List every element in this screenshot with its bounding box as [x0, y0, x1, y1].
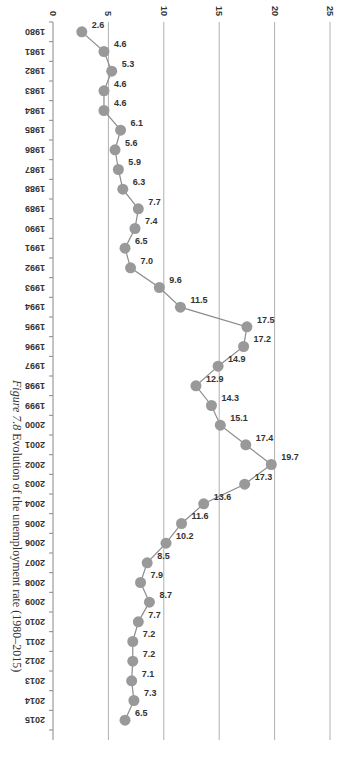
- figure-caption: Figure 7.8 Evolution of the unemployment…: [10, 379, 24, 672]
- x-tick-label: 2006: [25, 538, 45, 548]
- x-tick-label: 1995: [25, 322, 45, 332]
- x-tick-label: 1985: [25, 125, 45, 135]
- x-tick-label: 2010: [25, 617, 45, 627]
- data-label: 4.6: [114, 79, 127, 89]
- data-point: [239, 479, 250, 490]
- data-point: [144, 597, 155, 608]
- y-tick-label: 25: [325, 6, 335, 16]
- data-point: [117, 184, 128, 195]
- x-tick-label: 1991: [25, 243, 45, 253]
- data-point: [128, 695, 139, 706]
- data-point: [133, 203, 144, 214]
- x-tick-label: 1987: [25, 165, 45, 175]
- data-label: 7.3: [144, 689, 157, 699]
- caption-text: Evolution of the unemployment rate (1980…: [10, 433, 24, 672]
- x-tick-label: 2008: [25, 578, 45, 588]
- data-label: 2.6: [92, 20, 105, 30]
- data-point: [215, 420, 226, 431]
- line-chart: 0510152025198019811982198319841985198619…: [0, 0, 343, 763]
- x-tick-label: 2005: [25, 519, 45, 529]
- data-label: 15.1: [230, 413, 248, 423]
- data-label: 7.2: [143, 630, 156, 640]
- data-label: 7.0: [141, 256, 154, 266]
- data-line: [82, 32, 271, 720]
- data-point: [198, 498, 209, 509]
- data-point: [127, 636, 138, 647]
- data-label: 5.9: [128, 158, 141, 168]
- data-label: 7.7: [148, 610, 161, 620]
- data-label: 17.5: [257, 315, 275, 325]
- x-tick-label: 2015: [25, 715, 45, 725]
- y-tick-label: 10: [159, 6, 169, 16]
- data-point: [120, 243, 131, 254]
- page: 0510152025198019811982198319841985198619…: [0, 0, 343, 763]
- x-tick-label: 1983: [25, 86, 45, 96]
- data-point: [175, 302, 186, 313]
- x-tick-label: 2000: [25, 420, 45, 430]
- x-tick-label: 1984: [25, 106, 45, 116]
- data-label: 5.6: [125, 138, 138, 148]
- x-tick-label: 1981: [25, 47, 45, 57]
- data-label: 6.1: [131, 118, 144, 128]
- data-point: [98, 105, 109, 116]
- data-point: [115, 125, 126, 136]
- data-label: 7.4: [145, 217, 158, 227]
- data-label: 14.3: [221, 394, 239, 404]
- data-label: 9.6: [169, 276, 182, 286]
- data-label: 11.5: [190, 295, 207, 305]
- rotated-figure: 0510152025198019811982198319841985198619…: [0, 0, 343, 763]
- data-label: 11.6: [192, 512, 209, 522]
- x-tick-label: 2007: [25, 558, 45, 568]
- data-point: [213, 361, 224, 372]
- data-point: [126, 675, 137, 686]
- data-label: 8.5: [157, 551, 170, 561]
- data-label: 4.6: [114, 99, 127, 109]
- data-label: 10.2: [176, 531, 194, 541]
- x-tick-label: 1996: [25, 342, 45, 352]
- x-tick-label: 1988: [25, 184, 45, 194]
- x-tick-label: 1994: [25, 302, 45, 312]
- data-point: [129, 223, 140, 234]
- data-point: [106, 66, 117, 77]
- data-label: 7.9: [151, 571, 164, 581]
- x-tick-label: 1993: [25, 283, 45, 293]
- data-label: 17.4: [256, 433, 274, 443]
- data-label: 14.9: [228, 354, 246, 364]
- data-label: 5.3: [122, 59, 135, 69]
- data-point: [113, 164, 124, 175]
- data-point: [142, 557, 153, 568]
- data-point: [190, 380, 201, 391]
- x-tick-label: 2004: [25, 499, 45, 509]
- y-tick-label: 20: [270, 6, 280, 16]
- data-point: [238, 341, 249, 352]
- data-point: [133, 616, 144, 627]
- data-point: [240, 439, 251, 450]
- x-tick-label: 2013: [25, 676, 45, 686]
- x-tick-label: 1989: [25, 204, 45, 214]
- data-label: 17.3: [255, 472, 273, 482]
- y-tick-label: 5: [103, 11, 113, 16]
- x-tick-label: 1998: [25, 381, 45, 391]
- caption-prefix: Figure 7.8: [10, 379, 24, 433]
- x-tick-label: 2002: [25, 460, 45, 470]
- data-point: [76, 26, 87, 37]
- x-tick-label: 2011: [25, 637, 45, 647]
- x-tick-label: 2012: [25, 656, 45, 666]
- x-tick-label: 2009: [25, 597, 45, 607]
- data-label: 7.7: [148, 197, 161, 207]
- data-label: 12.9: [206, 374, 224, 384]
- data-label: 8.7: [159, 590, 172, 600]
- data-label: 13.6: [214, 492, 232, 502]
- data-point: [125, 262, 136, 273]
- data-point: [154, 282, 165, 293]
- data-point: [206, 400, 217, 411]
- x-tick-label: 1999: [25, 401, 45, 411]
- data-point: [120, 715, 131, 726]
- data-label: 6.5: [135, 236, 148, 246]
- y-tick-label: 0: [48, 11, 58, 16]
- data-label: 6.5: [135, 708, 148, 718]
- x-tick-label: 2003: [25, 479, 45, 489]
- data-label: 6.3: [133, 177, 146, 187]
- x-tick-label: 2001: [25, 440, 45, 450]
- data-label: 4.6: [114, 40, 127, 50]
